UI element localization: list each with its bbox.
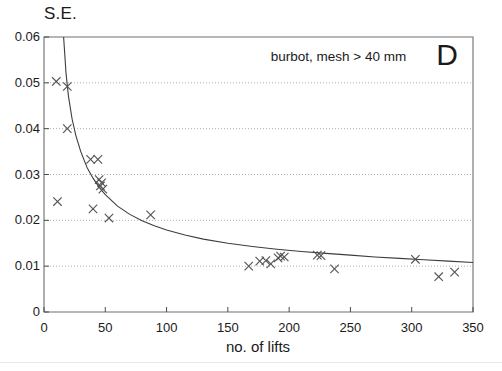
data-point-marker (89, 205, 97, 213)
x-axis-title-text: no. of lifts (226, 338, 290, 355)
plot-frame (44, 37, 473, 312)
data-point-marker (450, 268, 458, 276)
fitted-curve (64, 37, 473, 263)
x-axis-tick-label: 350 (448, 320, 498, 335)
scatter-plot (0, 0, 502, 371)
y-axis-tick-label: 0.06 (0, 29, 40, 44)
x-axis-tick-label: 300 (387, 320, 437, 335)
x-axis-tick-label: 150 (203, 320, 253, 335)
page-edge-divider (0, 362, 502, 363)
data-point-marker (86, 155, 94, 163)
x-axis-tick-label: 50 (80, 320, 130, 335)
data-point-marker (262, 256, 270, 264)
data-point-marker (267, 260, 275, 268)
y-axis-tick-label: 0.01 (0, 258, 40, 273)
data-point-marker (330, 265, 338, 273)
data-point-marker (52, 77, 60, 85)
y-axis-tick-label: 0.03 (0, 167, 40, 182)
data-point-marker (105, 214, 113, 222)
x-axis-tick-label: 100 (142, 320, 192, 335)
figure-panel-d: S.E. 00.010.020.030.040.050.06 050100150… (0, 0, 502, 371)
x-axis-tick-label: 250 (325, 320, 375, 335)
data-point-marker (146, 211, 154, 219)
y-axis-tick-label: 0.04 (0, 121, 40, 136)
y-axis-tick-label: 0 (0, 304, 40, 319)
data-point-marker (63, 124, 71, 132)
y-axis-tick-label: 0.02 (0, 212, 40, 227)
panel-label: D (436, 40, 458, 70)
data-point-marker (434, 273, 442, 281)
x-axis-title: no. of lifts (0, 338, 502, 355)
series-annotation: burbot, mesh > 40 mm (271, 49, 406, 64)
axis-ticks (44, 37, 473, 312)
data-points (52, 77, 459, 281)
gridlines (44, 83, 473, 266)
y-axis-tick-label: 0.05 (0, 75, 40, 90)
x-axis-tick-label: 200 (264, 320, 314, 335)
data-point-marker (94, 155, 102, 163)
data-point-marker (53, 197, 61, 205)
x-axis-tick-label: 0 (19, 320, 69, 335)
